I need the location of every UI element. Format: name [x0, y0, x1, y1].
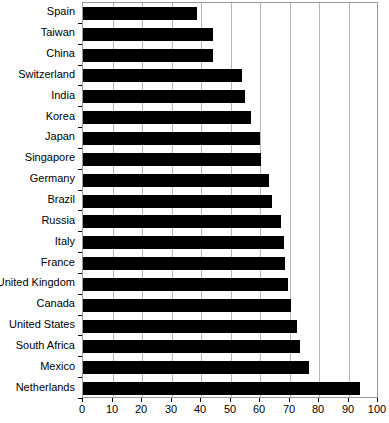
bar [83, 69, 242, 82]
category-tick [78, 127, 82, 128]
x-tick-label: 80 [312, 404, 324, 415]
x-tick-label: 50 [224, 404, 236, 415]
x-tick-label: 100 [368, 404, 386, 415]
category-label: Japan [45, 131, 75, 142]
category-label: Spain [47, 6, 75, 17]
x-tick [259, 398, 260, 402]
bar [83, 320, 297, 333]
category-tick [78, 377, 82, 378]
category-tick [78, 44, 82, 45]
category-tick [78, 23, 82, 24]
x-tick [112, 398, 113, 402]
bar [83, 49, 213, 62]
category-label: Brazil [47, 194, 75, 205]
plot-area [82, 2, 378, 398]
category-tick [78, 335, 82, 336]
category-tick [78, 294, 82, 295]
category-tick [78, 210, 82, 211]
x-tick [141, 398, 142, 402]
gridline [290, 3, 291, 397]
category-label: Switzerland [18, 69, 75, 80]
bar [83, 340, 300, 353]
category-label: Russia [41, 215, 75, 226]
bar [83, 111, 251, 124]
category-label: Netherlands [16, 382, 75, 393]
category-tick [78, 273, 82, 274]
category-label: Mexico [40, 361, 75, 372]
category-tick [78, 85, 82, 86]
bar [83, 257, 285, 270]
bar [83, 361, 309, 374]
x-tick-label: 60 [253, 404, 265, 415]
category-label: China [46, 48, 75, 59]
category-tick [78, 252, 82, 253]
category-label: United States [9, 319, 75, 330]
bar [83, 174, 269, 187]
x-tick-label: 70 [283, 404, 295, 415]
bar [83, 195, 272, 208]
bar [83, 132, 260, 145]
category-label: France [41, 257, 75, 268]
category-tick [78, 356, 82, 357]
bar [83, 28, 213, 41]
x-tick-label: 0 [79, 404, 85, 415]
bar [83, 299, 291, 312]
gridline [319, 3, 320, 397]
bar [83, 90, 245, 103]
category-tick [78, 106, 82, 107]
x-tick-label: 20 [135, 404, 147, 415]
category-tick [78, 190, 82, 191]
category-tick [78, 148, 82, 149]
category-tick [78, 65, 82, 66]
category-axis-labels: SpainTaiwanChinaSwitzerlandIndiaKoreaJap… [0, 0, 79, 398]
bar-chart: SpainTaiwanChinaSwitzerlandIndiaKoreaJap… [0, 0, 389, 423]
bar [83, 215, 281, 228]
category-label: Korea [46, 111, 75, 122]
category-label: Taiwan [41, 27, 75, 38]
x-tick [289, 398, 290, 402]
x-tick [318, 398, 319, 402]
category-tick [78, 231, 82, 232]
category-label: Canada [36, 298, 75, 309]
bar [83, 236, 284, 249]
category-tick [78, 315, 82, 316]
x-tick [171, 398, 172, 402]
bar [83, 382, 360, 395]
bar [83, 7, 197, 20]
x-tick [82, 398, 83, 402]
x-tick-label: 10 [106, 404, 118, 415]
category-label: Singapore [25, 152, 75, 163]
category-tick [78, 169, 82, 170]
x-tick-label: 90 [342, 404, 354, 415]
category-label: South Africa [16, 340, 75, 351]
category-label: India [51, 90, 75, 101]
x-tick [348, 398, 349, 402]
bar [83, 278, 288, 291]
x-tick-label: 40 [194, 404, 206, 415]
x-tick-label: 30 [165, 404, 177, 415]
bar [83, 153, 261, 166]
x-tick [377, 398, 378, 402]
category-label: United Kingdom [0, 277, 75, 288]
category-label: Germany [30, 173, 75, 184]
x-tick [230, 398, 231, 402]
gridline [349, 3, 350, 397]
category-label: Italy [55, 236, 75, 247]
x-tick [200, 398, 201, 402]
